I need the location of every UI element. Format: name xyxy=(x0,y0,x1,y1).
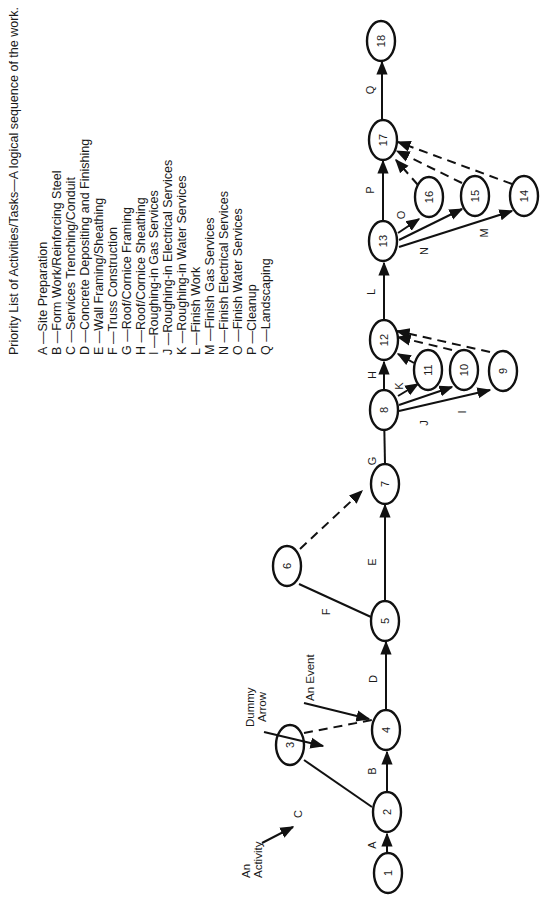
svg-text:2: 2 xyxy=(381,809,393,815)
event-node-17: 17 xyxy=(369,120,397,160)
event-node-5: 5 xyxy=(371,601,399,641)
event-node-3: 3 xyxy=(276,725,304,765)
svg-text:3: 3 xyxy=(284,742,296,748)
annotations: An Activity Dummy Arrow An Event xyxy=(240,654,369,878)
event-node-18: 18 xyxy=(367,21,395,61)
edge-m xyxy=(399,211,512,247)
svg-text:6: 6 xyxy=(281,563,293,569)
activity-item-f: F —Truss Construction xyxy=(106,227,120,355)
edge-label-n: N xyxy=(418,247,430,255)
edge-label-o: O xyxy=(395,210,407,219)
event-node-15: 15 xyxy=(461,176,489,216)
edge-label-b: B xyxy=(366,767,378,774)
event-node-10: 10 xyxy=(450,350,478,390)
event-node-14: 14 xyxy=(510,176,538,216)
edge-f xyxy=(299,584,371,617)
dummy-edge-10-12 xyxy=(398,337,452,350)
dummy-edge-16-17 xyxy=(396,160,418,185)
nodes: 1 2 3 4 5 6 7 8 9 10 11 12 13 14 15 16 1… xyxy=(273,21,538,893)
event-node-8: 8 xyxy=(370,390,398,430)
event-node-13: 13 xyxy=(369,221,397,261)
priority-list: Priority List of Activities/Tasks—A logi… xyxy=(7,7,273,355)
event-node-7: 7 xyxy=(371,464,399,504)
dummy-edge-11-12 xyxy=(398,354,414,363)
activity-item-o: O —Finish Water Services xyxy=(231,208,245,355)
activity-item-c: C —Services Trenching/Conduit xyxy=(64,177,78,355)
activity-item-j: J —Roughing-in Electrical Services xyxy=(161,160,175,355)
edge-label-q: Q xyxy=(364,85,376,94)
edge-label-e: E xyxy=(366,558,378,565)
event-node-12: 12 xyxy=(370,320,398,360)
svg-text:13: 13 xyxy=(377,235,389,247)
activity-item-b: B —Form Work/Reinforcing Steel xyxy=(50,170,64,355)
edge-c xyxy=(304,760,372,807)
activity-item-e: E —Wall Framing/Sheathing xyxy=(92,198,106,355)
svg-text:11: 11 xyxy=(422,364,434,375)
svg-text:8: 8 xyxy=(378,407,390,413)
svg-text:12: 12 xyxy=(378,334,390,346)
svg-text:1: 1 xyxy=(382,870,394,876)
annotation-activity: Activity xyxy=(252,841,264,878)
event-node-1: 1 xyxy=(374,853,402,893)
activity-item-i: I —Roughing-in Gas Services xyxy=(147,190,161,355)
activity-item-d: D —Concrete Depositing and Finishing xyxy=(78,139,92,355)
svg-text:9: 9 xyxy=(497,368,509,374)
dummy-edge-14-17 xyxy=(398,142,512,184)
edge-label-c: C xyxy=(292,810,304,818)
annotation-an: An xyxy=(240,864,252,878)
event-node-16: 16 xyxy=(415,177,443,217)
edge-label-g: G xyxy=(366,457,378,466)
event-node-9: 9 xyxy=(489,351,517,391)
svg-text:10: 10 xyxy=(458,364,470,376)
annotation-event-pointer xyxy=(304,703,369,719)
event-node-11: 11 xyxy=(414,350,442,390)
svg-text:18: 18 xyxy=(375,35,387,47)
edge-label-f: F xyxy=(320,608,332,615)
activity-item-a: A —Site Preparation xyxy=(36,242,50,355)
event-node-2: 2 xyxy=(373,792,401,832)
edge-label-l: L xyxy=(365,289,377,295)
activity-item-p: P —Cleanup xyxy=(245,284,259,355)
activity-network-diagram: Priority List of Activities/Tasks—A logi… xyxy=(0,0,559,899)
edge-label-d: D xyxy=(367,675,379,683)
svg-text:16: 16 xyxy=(423,191,435,203)
dummy-edge-3-4 xyxy=(304,720,372,733)
edge-label-j: J xyxy=(418,420,430,426)
event-node-4: 4 xyxy=(372,710,400,750)
annotation-activity-pointer xyxy=(262,827,293,843)
edge-label-i: I xyxy=(456,410,468,413)
svg-text:5: 5 xyxy=(379,618,391,624)
activity-item-g: G —Roof/Cornice Framing xyxy=(120,207,134,355)
edge-label-k: K xyxy=(393,382,405,390)
svg-text:17: 17 xyxy=(377,134,389,146)
edge-label-h: H xyxy=(366,371,378,379)
activity-item-n: N —Finish Electrical Services xyxy=(217,191,231,355)
edge-label-a: A xyxy=(366,841,378,849)
edge-label-p: P xyxy=(364,186,376,193)
activity-item-m: M —Finish Gas Services xyxy=(203,217,217,355)
activity-item-q: Q —Landscaping xyxy=(259,258,273,355)
activity-item-k: K —Roughing-in Water Services xyxy=(175,176,189,355)
annotation-arrow: Arrow xyxy=(256,691,268,722)
svg-text:14: 14 xyxy=(518,190,530,202)
dummy-edge-6-7 xyxy=(300,491,362,549)
annotation-event: An Event xyxy=(304,654,316,701)
svg-text:15: 15 xyxy=(469,190,481,202)
annotation-dummy: Dummy xyxy=(244,687,256,727)
list-title: Priority List of Activities/Tasks—A logi… xyxy=(7,7,21,355)
activity-item-l: L —Finish Work xyxy=(189,266,203,355)
edge-label-m: M xyxy=(478,228,490,237)
activity-item-h: H —Roof/Cornice Sheathing xyxy=(134,197,148,355)
svg-text:4: 4 xyxy=(380,727,392,733)
event-node-6: 6 xyxy=(273,546,301,586)
svg-text:7: 7 xyxy=(379,481,391,487)
